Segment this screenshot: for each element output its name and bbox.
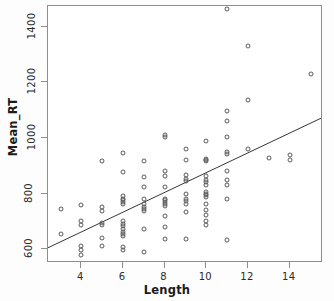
data-point xyxy=(121,247,126,252)
data-point xyxy=(58,231,63,236)
y-axis-tick-label: 1200 xyxy=(26,68,37,95)
data-point xyxy=(79,202,84,207)
x-axis-title: Length xyxy=(0,283,334,297)
data-point xyxy=(79,222,84,227)
data-point xyxy=(100,208,105,213)
data-point xyxy=(121,151,126,156)
data-point xyxy=(225,6,230,11)
data-point xyxy=(225,238,230,243)
y-axis-tick-label: 600 xyxy=(23,238,34,258)
x-axis-tick xyxy=(122,262,123,268)
x-axis-tick-label: 4 xyxy=(77,271,84,282)
data-point xyxy=(204,213,209,218)
data-point xyxy=(141,175,146,180)
data-point xyxy=(204,158,209,163)
data-point xyxy=(141,227,146,232)
data-point xyxy=(100,222,105,227)
data-point xyxy=(100,235,105,240)
y-axis-tick-label: 1000 xyxy=(26,124,37,151)
x-axis-tick-label: 6 xyxy=(119,271,126,282)
data-point xyxy=(100,158,105,163)
x-axis-tick-label: 10 xyxy=(199,271,212,282)
x-axis-tick-label: 14 xyxy=(282,271,295,282)
data-point xyxy=(225,152,230,157)
data-point xyxy=(141,158,146,163)
x-axis-tick-label: 12 xyxy=(240,271,253,282)
x-axis-tick-label: 8 xyxy=(160,271,167,282)
data-point xyxy=(246,44,251,49)
plot-area xyxy=(48,6,321,261)
scatter-plot-figure: Mean_RT 600800100012001400 468101214 Len… xyxy=(0,0,334,301)
data-point xyxy=(162,204,167,209)
data-point xyxy=(121,202,126,207)
data-point xyxy=(141,249,146,254)
x-axis-tick xyxy=(205,262,206,268)
data-point xyxy=(287,152,292,157)
data-point xyxy=(246,147,251,152)
data-point xyxy=(204,183,209,188)
data-point xyxy=(225,118,230,123)
x-axis-tick xyxy=(164,262,165,268)
y-axis-tick-label: 800 xyxy=(23,183,34,203)
data-point xyxy=(266,155,271,160)
data-point xyxy=(183,147,188,152)
data-point xyxy=(183,210,188,215)
data-point xyxy=(204,222,209,227)
data-point xyxy=(204,202,209,207)
data-point xyxy=(183,236,188,241)
regression-line xyxy=(48,6,321,261)
data-point xyxy=(183,179,188,184)
y-axis-tick-label: 1400 xyxy=(26,13,37,40)
data-point xyxy=(79,247,84,252)
y-axis-title: Mean_RT xyxy=(6,92,20,162)
x-axis-tick xyxy=(247,262,248,268)
data-point xyxy=(225,108,230,113)
data-point xyxy=(204,207,209,212)
data-point xyxy=(162,174,167,179)
data-point xyxy=(204,194,209,199)
data-point xyxy=(162,237,167,242)
plot-frame xyxy=(47,5,322,262)
data-point xyxy=(141,196,146,201)
data-point xyxy=(141,185,146,190)
data-point xyxy=(121,233,126,238)
data-point xyxy=(162,214,167,219)
data-point xyxy=(246,98,251,103)
data-point xyxy=(162,224,167,229)
data-point xyxy=(79,253,84,258)
x-axis-tick xyxy=(289,262,290,268)
data-point xyxy=(58,206,63,211)
data-point xyxy=(225,169,230,174)
x-axis-tick xyxy=(80,262,81,268)
data-point xyxy=(225,196,230,201)
data-point xyxy=(121,169,126,174)
data-point xyxy=(100,243,105,248)
data-point xyxy=(225,135,230,140)
data-point xyxy=(162,135,167,140)
data-point xyxy=(183,158,188,163)
data-point xyxy=(183,202,188,207)
data-point xyxy=(225,182,230,187)
data-point xyxy=(141,208,146,213)
data-point xyxy=(204,138,209,143)
data-point xyxy=(308,72,313,77)
data-point xyxy=(162,185,167,190)
data-point xyxy=(287,158,292,163)
